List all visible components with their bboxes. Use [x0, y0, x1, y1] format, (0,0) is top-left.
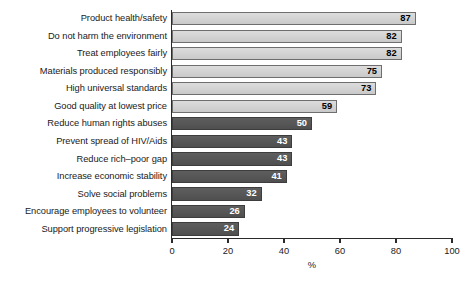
- x-axis-tick: [227, 238, 228, 243]
- bar-row: Do not harm the environment82: [0, 28, 474, 46]
- bar[interactable]: 82: [172, 30, 402, 43]
- x-axis-tick-label: 100: [444, 246, 460, 256]
- x-axis-tick-label: 40: [279, 246, 289, 256]
- x-axis-title: %: [172, 260, 452, 270]
- category-label: Product health/safety: [4, 13, 172, 24]
- bar[interactable]: 82: [172, 47, 402, 60]
- bar[interactable]: 24: [172, 222, 239, 235]
- category-label: Support progressive legislation: [4, 224, 172, 235]
- category-label: Reduce rich–poor gap: [4, 154, 172, 165]
- category-label: Encourage employees to volunteer: [4, 206, 172, 217]
- bar-value-label: 32: [246, 189, 260, 198]
- bar-row: Reduce rich–poor gap43: [0, 150, 474, 168]
- bar-track: 50: [172, 115, 452, 133]
- bar-row: Support progressive legislation24: [0, 220, 474, 238]
- bar-row: Prevent spread of HIV/Aids43: [0, 133, 474, 151]
- x-axis-tick: [395, 238, 396, 243]
- category-label: Increase economic stability: [4, 171, 172, 182]
- bar-value-label: 24: [224, 224, 238, 233]
- x-axis-tick: [283, 238, 284, 243]
- x-axis-tick-label: 0: [169, 246, 174, 256]
- bar-value-label: 75: [367, 67, 381, 76]
- bar-row: Good quality at lowest price59: [0, 98, 474, 116]
- x-axis-line: [172, 238, 452, 239]
- x-axis-tick: [451, 238, 452, 243]
- bar-row: Increase economic stability41: [0, 168, 474, 186]
- bar-track: 75: [172, 63, 452, 81]
- bar-row: Solve social problems32: [0, 185, 474, 203]
- category-label: Do not harm the environment: [4, 31, 172, 42]
- y-axis-line: [171, 10, 172, 238]
- bar-value-label: 82: [386, 49, 400, 58]
- x-axis-tick: [339, 238, 340, 243]
- x-axis: 020406080100: [172, 238, 452, 239]
- bar[interactable]: 59: [172, 100, 337, 113]
- category-label: Prevent spread of HIV/Aids: [4, 136, 172, 147]
- bar[interactable]: 87: [172, 12, 416, 25]
- bar-track: 43: [172, 133, 452, 151]
- bar[interactable]: 43: [172, 135, 292, 148]
- bar-row: Reduce human rights abuses50: [0, 115, 474, 133]
- category-label: Reduce human rights abuses: [4, 118, 172, 129]
- bar-track: 32: [172, 185, 452, 203]
- bar-value-label: 26: [229, 207, 243, 216]
- bar-track: 59: [172, 98, 452, 116]
- bar-track: 41: [172, 168, 452, 186]
- bar-row: Materials produced responsibly75: [0, 63, 474, 81]
- bar-row: Product health/safety87: [0, 10, 474, 28]
- x-axis-tick-label: 60: [335, 246, 345, 256]
- x-axis-tick: [171, 238, 172, 243]
- bar[interactable]: 73: [172, 82, 376, 95]
- bar-track: 24: [172, 220, 452, 238]
- bar-track: 43: [172, 150, 452, 168]
- bar-value-label: 87: [400, 14, 414, 23]
- bar-value-label: 50: [297, 119, 311, 128]
- bar-value-label: 73: [361, 84, 375, 93]
- bar-value-label: 59: [322, 102, 336, 111]
- bar-track: 26: [172, 203, 452, 221]
- bar-track: 82: [172, 28, 452, 46]
- category-label: Solve social problems: [4, 189, 172, 200]
- category-label: High universal standards: [4, 83, 172, 94]
- category-label: Treat employees fairly: [4, 48, 172, 59]
- category-label: Good quality at lowest price: [4, 101, 172, 112]
- bar[interactable]: 32: [172, 187, 262, 200]
- bar[interactable]: 50: [172, 117, 312, 130]
- bar[interactable]: 41: [172, 170, 287, 183]
- x-axis-tick-label: 20: [223, 246, 233, 256]
- bar-value-label: 82: [386, 32, 400, 41]
- bar-track: 82: [172, 45, 452, 63]
- bar-value-label: 41: [271, 172, 285, 181]
- bar-row: Encourage employees to volunteer26: [0, 203, 474, 221]
- category-label: Materials produced responsibly: [4, 66, 172, 77]
- bar-value-label: 43: [277, 154, 291, 163]
- chart-plot-area: Product health/safety87Do not harm the e…: [0, 10, 474, 238]
- bar-track: 87: [172, 10, 452, 28]
- bar-row: Treat employees fairly82: [0, 45, 474, 63]
- bar[interactable]: 75: [172, 65, 382, 78]
- x-axis-tick-label: 80: [391, 246, 401, 256]
- bar-value-label: 43: [277, 137, 291, 146]
- bar[interactable]: 26: [172, 205, 245, 218]
- bar-chart: Product health/safety87Do not harm the e…: [0, 0, 474, 288]
- bar[interactable]: 43: [172, 152, 292, 165]
- bar-track: 73: [172, 80, 452, 98]
- bar-row: High universal standards73: [0, 80, 474, 98]
